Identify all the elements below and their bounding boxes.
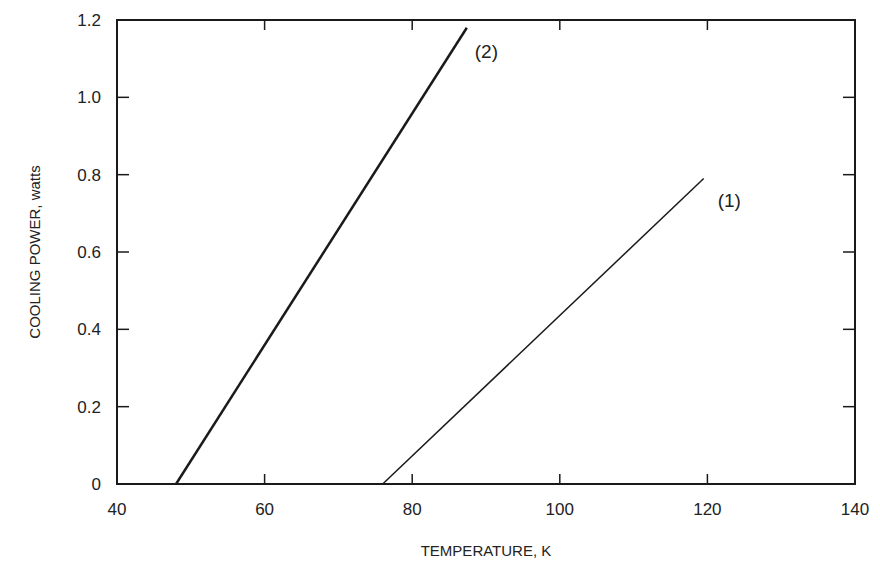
- series-label-1: (1): [718, 190, 741, 211]
- y-tick-label: 0.4: [77, 320, 101, 339]
- y-tick-label: 0.6: [77, 243, 101, 262]
- y-axis-title: COOLING POWER, watts: [26, 165, 43, 338]
- x-tick-label: 60: [255, 500, 274, 519]
- series-line-2: [176, 28, 467, 484]
- x-axis-title: TEMPERATURE, K: [421, 542, 552, 559]
- x-tick-labels: 406080100120140: [108, 500, 870, 519]
- series-line-1: [383, 179, 704, 484]
- x-tick-label: 40: [108, 500, 127, 519]
- x-tick-label: 120: [693, 500, 721, 519]
- y-tick-label: 1.2: [77, 11, 101, 30]
- y-tick-labels: 00.20.40.60.81.01.2: [77, 11, 101, 494]
- y-tick-label: 1.0: [77, 88, 101, 107]
- data-lines: [176, 28, 704, 484]
- y-tick-label: 0.2: [77, 398, 101, 417]
- y-tick-label: 0.8: [77, 166, 101, 185]
- plot-area: [117, 20, 855, 484]
- chart: 406080100120140 00.20.40.60.81.01.2 (1)(…: [0, 0, 880, 573]
- x-tick-label: 80: [403, 500, 422, 519]
- x-tick-label: 100: [546, 500, 574, 519]
- series-label-2: (2): [475, 41, 498, 62]
- x-tick-label: 140: [841, 500, 869, 519]
- axis-ticks: [117, 20, 855, 484]
- series-labels: (1)(2): [475, 41, 741, 211]
- y-tick-label: 0: [92, 475, 101, 494]
